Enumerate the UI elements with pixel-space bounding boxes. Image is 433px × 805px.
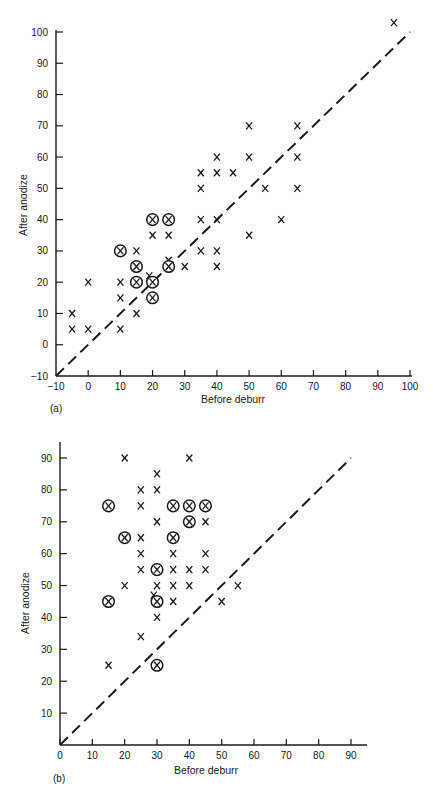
x-tick-label: 0 (85, 381, 91, 392)
circled-x-marker (131, 261, 143, 273)
x-marker (117, 294, 123, 301)
x-marker (182, 263, 188, 270)
x-tick-label: 70 (281, 750, 293, 761)
x-marker (235, 582, 241, 589)
x-tick-label: 80 (313, 750, 325, 761)
x-axis-title-a: Before deburr (201, 393, 266, 405)
x-marker (69, 326, 75, 333)
x-tick-label: 100 (402, 381, 419, 392)
y-tick-label: 30 (41, 644, 53, 655)
circled-x-marker (151, 596, 163, 608)
circled-x-marker (163, 261, 175, 273)
x-tick-label: 50 (244, 381, 256, 392)
x-tick-label: 90 (372, 381, 384, 392)
x-marker (214, 263, 220, 270)
circled-x-marker (151, 564, 163, 576)
circled-x-marker (184, 500, 196, 512)
x-tick-label: −10 (48, 381, 65, 392)
x-marker (138, 534, 144, 541)
figure: −100102030405060708090100−10010203040506… (0, 0, 433, 805)
reference-line-a (56, 32, 410, 376)
x-marker (219, 598, 225, 605)
y-tick-label: 40 (41, 612, 53, 623)
panel-label-b: (b) (53, 773, 65, 784)
x-marker (154, 486, 160, 493)
data-points-a (69, 19, 397, 332)
x-marker (122, 455, 128, 462)
x-marker (294, 185, 300, 192)
x-marker (170, 550, 176, 557)
y-tick-label: 50 (41, 580, 53, 591)
x-marker (122, 582, 128, 589)
scatter-plot-a: −100102030405060708090100−10010203040506… (17, 19, 419, 414)
x-marker (150, 232, 156, 239)
x-marker (154, 582, 160, 589)
x-marker (198, 169, 204, 176)
x-marker (294, 122, 300, 129)
x-marker (391, 19, 397, 26)
x-tick-label: 0 (57, 750, 63, 761)
panel-label-a: (a) (50, 403, 62, 414)
y-tick-label: 0 (42, 339, 48, 350)
x-marker (262, 185, 268, 192)
circled-x-marker (163, 214, 175, 226)
x-marker (214, 216, 220, 223)
circled-x-marker (115, 245, 127, 257)
x-marker (69, 310, 75, 317)
circled-x-marker (167, 532, 179, 544)
y-tick-label: 80 (41, 484, 53, 495)
x-marker (106, 662, 112, 669)
x-marker (186, 582, 192, 589)
x-tick-label: 40 (184, 750, 196, 761)
circled-x-marker (119, 532, 131, 544)
x-marker (170, 598, 176, 605)
x-marker (166, 232, 172, 239)
x-marker (154, 614, 160, 621)
y-tick-label: 30 (37, 245, 49, 256)
y-tick-label: 80 (37, 89, 49, 100)
y-tick-label: 10 (41, 708, 53, 719)
y-tick-label: 90 (37, 58, 49, 69)
x-marker (138, 550, 144, 557)
y-tick-label: 60 (41, 548, 53, 559)
x-marker (198, 216, 204, 223)
circled-x-marker (103, 596, 115, 608)
y-tick-label: 50 (37, 183, 49, 194)
x-tick-label: 60 (248, 750, 260, 761)
x-marker (214, 169, 220, 176)
circled-x-marker (200, 500, 212, 512)
x-tick-label: 30 (151, 750, 163, 761)
x-tick-label: 20 (147, 381, 159, 392)
x-marker (170, 566, 176, 573)
x-marker (170, 582, 176, 589)
x-marker (133, 247, 139, 254)
x-marker (214, 247, 220, 254)
axes-a: −100102030405060708090100−10010203040506… (31, 27, 419, 393)
y-tick-label: 20 (37, 277, 49, 288)
x-tick-label: 30 (179, 381, 191, 392)
x-marker (278, 216, 284, 223)
identity-dashed-line (56, 32, 410, 376)
x-marker (138, 486, 144, 493)
x-marker (117, 326, 123, 333)
y-tick-label: 100 (31, 27, 48, 38)
x-marker (230, 169, 236, 176)
x-marker (246, 154, 252, 161)
x-marker (133, 310, 139, 317)
x-marker (198, 185, 204, 192)
y-tick-label: 70 (41, 516, 53, 527)
y-tick-label: 40 (37, 214, 49, 225)
circled-x-marker (131, 276, 143, 288)
x-marker (198, 247, 204, 254)
x-tick-label: 10 (115, 381, 127, 392)
x-marker (203, 518, 209, 525)
x-marker (138, 566, 144, 573)
x-marker (203, 566, 209, 573)
circled-x-marker (147, 214, 159, 226)
x-marker (154, 518, 160, 525)
x-tick-label: 40 (211, 381, 223, 392)
x-tick-label: 60 (276, 381, 288, 392)
x-marker (246, 232, 252, 239)
x-marker (85, 326, 91, 333)
x-tick-label: 10 (87, 750, 99, 761)
